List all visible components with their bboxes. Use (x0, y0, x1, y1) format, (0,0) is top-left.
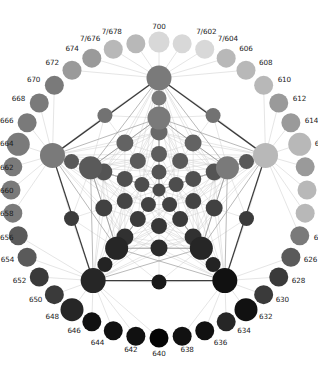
inner-lattice-node[interactable] (152, 165, 167, 180)
inner-lattice-node[interactable] (117, 193, 133, 209)
outer-ring-node-666[interactable] (18, 113, 37, 132)
outer-ring-label-7-602: 7/602 (196, 28, 216, 35)
inner-lattice-node[interactable] (206, 199, 223, 216)
pentagon-outer-node[interactable] (81, 268, 106, 293)
inner-lattice-node[interactable] (64, 211, 79, 226)
inner-lattice-node[interactable] (206, 108, 221, 123)
inner-lattice-node[interactable] (239, 154, 254, 169)
inner-lattice-node[interactable] (169, 177, 184, 192)
outer-ring-node-630[interactable] (254, 285, 273, 304)
outer-ring-node-652[interactable] (30, 267, 49, 286)
outer-ring-node-642[interactable] (126, 327, 145, 346)
inner-lattice-node[interactable] (185, 193, 201, 209)
inner-lattice-node[interactable] (172, 153, 188, 169)
outer-ring-label-610: 610 (278, 76, 291, 83)
inner-lattice-node[interactable] (162, 197, 177, 212)
outer-ring-label-630: 630 (276, 296, 289, 303)
outer-ring-node-644[interactable] (104, 321, 123, 340)
outer-ring-label-648: 648 (0, 313, 59, 320)
graph-canvas (0, 0, 318, 365)
outer-ring-node-7-602[interactable] (173, 34, 192, 53)
pentagon-mid-node[interactable] (105, 237, 128, 260)
pentagon-outer-node[interactable] (253, 143, 278, 168)
outer-ring-node-670[interactable] (45, 76, 64, 95)
outer-ring-node-674[interactable] (82, 49, 101, 68)
inner-lattice-node[interactable] (151, 146, 167, 162)
outer-ring-node-646[interactable] (82, 312, 101, 331)
inner-lattice-node[interactable] (134, 177, 149, 192)
inner-lattice-node[interactable] (151, 240, 168, 257)
inner-lattice-node[interactable] (97, 257, 112, 272)
inner-lattice-node[interactable] (95, 199, 112, 216)
inner-lattice-node[interactable] (130, 153, 146, 169)
outer-ring-node-668[interactable] (30, 94, 49, 113)
outer-ring-label-700: 700 (145, 23, 173, 30)
inner-lattice-node[interactable] (185, 135, 202, 152)
outer-ring-node-650[interactable] (45, 285, 64, 304)
pentagon-mid-node[interactable] (79, 156, 102, 179)
inner-lattice-node[interactable] (206, 257, 221, 272)
inner-lattice-node[interactable] (152, 91, 167, 106)
outer-ring-stem (93, 281, 159, 338)
inner-lattice-node[interactable] (152, 275, 167, 290)
outer-ring-node-628[interactable] (269, 267, 288, 286)
outer-ring-node-648[interactable] (61, 298, 84, 321)
outer-ring-node-612[interactable] (269, 94, 288, 113)
outer-ring-label-640: 640 (145, 350, 173, 357)
outer-ring-node-620[interactable] (298, 181, 317, 200)
pentagon-mid-node[interactable] (190, 237, 213, 260)
outer-ring-label-666: 666 (0, 117, 13, 124)
inner-lattice-node[interactable] (153, 184, 166, 197)
outer-ring-node-624[interactable] (290, 226, 309, 245)
outer-ring-node-618[interactable] (296, 157, 315, 176)
outer-ring-node-700[interactable] (149, 32, 170, 53)
lattice-diagram: 7007/6027/604606608610612614616618620622… (0, 0, 318, 365)
outer-ring-label-662: 662 (0, 164, 13, 171)
outer-ring-node-7-676[interactable] (104, 40, 123, 59)
outer-ring-label-668: 668 (0, 95, 25, 102)
pentagon-outer-node[interactable] (40, 143, 65, 168)
outer-ring-node-634[interactable] (217, 312, 236, 331)
inner-lattice-node[interactable] (116, 135, 133, 152)
inner-lattice-node[interactable] (97, 108, 112, 123)
outer-ring-label-674: 674 (0, 45, 79, 52)
outer-ring-node-616[interactable] (288, 133, 311, 156)
inner-lattice-node[interactable] (64, 154, 79, 169)
inner-lattice-node[interactable] (117, 171, 133, 187)
outer-ring-label-632: 632 (259, 313, 272, 320)
outer-ring-node-614[interactable] (281, 113, 300, 132)
outer-ring-node-638[interactable] (173, 327, 192, 346)
outer-ring-node-654[interactable] (18, 248, 37, 267)
inner-lattice-node[interactable] (172, 211, 188, 227)
outer-ring-node-622[interactable] (296, 204, 315, 223)
pentagon-mid-node[interactable] (148, 107, 171, 130)
outer-ring-node-640[interactable] (150, 329, 169, 348)
outer-ring-node-606[interactable] (217, 49, 236, 68)
outer-ring-node-7-678[interactable] (126, 34, 145, 53)
outer-ring-node-626[interactable] (281, 248, 300, 267)
outer-ring-label-7-678: 7/678 (0, 28, 122, 35)
outer-ring-node-636[interactable] (195, 321, 214, 340)
outer-ring-label-612: 612 (293, 95, 306, 102)
outer-ring-node-672[interactable] (63, 61, 82, 80)
outer-ring-label-634: 634 (237, 327, 250, 334)
outer-ring-node-608[interactable] (236, 61, 255, 80)
inner-lattice-node[interactable] (151, 218, 167, 234)
inner-lattice-node[interactable] (185, 171, 201, 187)
inner-lattice-node[interactable] (130, 211, 146, 227)
pentagon-mid-node[interactable] (216, 156, 239, 179)
outer-ring-node-7-604[interactable] (195, 40, 214, 59)
inner-lattice-node[interactable] (141, 197, 156, 212)
outer-ring-node-632[interactable] (234, 298, 257, 321)
outer-ring-label-616: 616 (315, 140, 318, 147)
outer-ring-node-610[interactable] (254, 76, 273, 95)
outer-ring-label-664: 664 (0, 140, 3, 147)
outer-ring-label-614: 614 (305, 117, 318, 124)
pentagon-outer-node[interactable] (147, 66, 172, 91)
outer-ring-label-672: 672 (0, 59, 59, 66)
outer-ring-label-638: 638 (173, 346, 201, 353)
pentagon-cross (159, 118, 266, 155)
pentagon-outer-node[interactable] (212, 268, 237, 293)
outer-ring-label-660: 660 (0, 187, 13, 194)
inner-lattice-node[interactable] (239, 211, 254, 226)
